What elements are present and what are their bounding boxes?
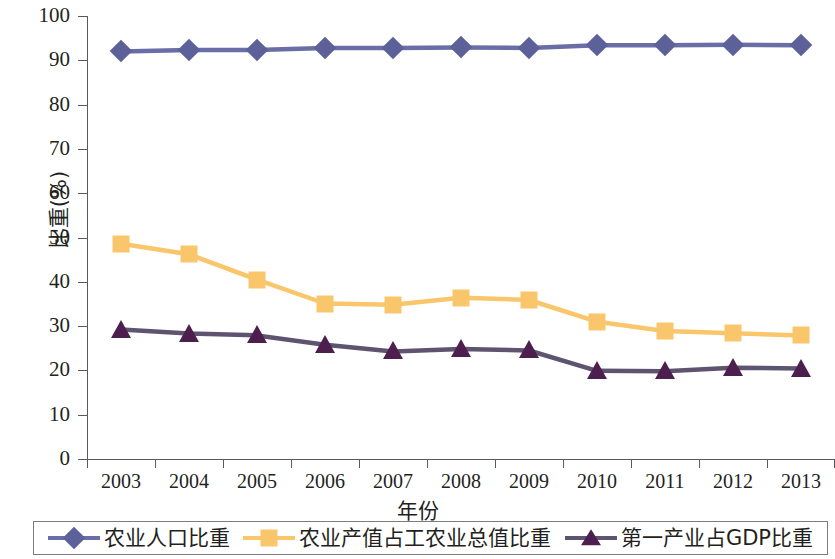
y-tick-mark: [78, 105, 87, 106]
legend-label: 第一产业占GDP比重: [621, 528, 813, 549]
x-tick-label: 2013: [756, 470, 835, 492]
x-tick-mark: [631, 459, 632, 468]
y-tick-mark: [78, 370, 87, 371]
legend-marker-triangle-icon: [581, 529, 601, 545]
y-tick-label: 0: [0, 448, 70, 469]
data-point-marker: [725, 325, 742, 342]
x-tick-mark: [495, 459, 496, 468]
legend-key-icon: [48, 528, 100, 548]
y-tick-label: 60: [0, 182, 70, 203]
y-tick-mark: [78, 282, 87, 283]
data-point-marker: [385, 296, 402, 313]
data-point-marker: [723, 358, 743, 376]
legend-label: 农业人口比重: [104, 528, 230, 549]
y-tick-label: 90: [0, 49, 70, 70]
x-tick-mark: [87, 459, 88, 468]
data-point-marker: [451, 339, 471, 357]
y-tick-label: 70: [0, 138, 70, 159]
y-tick-mark: [78, 193, 87, 194]
data-point-marker: [450, 36, 473, 59]
x-tick-mark: [291, 459, 292, 468]
chart-root: 比重(%) 0102030405060708090100 20032004200…: [0, 0, 835, 559]
data-point-marker: [453, 289, 470, 306]
y-tick-label: 40: [0, 271, 70, 292]
data-point-marker: [382, 37, 405, 60]
data-point-marker: [247, 325, 267, 343]
data-point-marker: [589, 313, 606, 330]
legend-marker-diamond-icon: [63, 527, 86, 550]
y-axis-title: 比重(%): [42, 145, 72, 275]
y-tick-label: 20: [0, 359, 70, 380]
y-tick-mark: [78, 16, 87, 17]
data-point-marker: [113, 235, 130, 252]
data-point-marker: [111, 320, 131, 338]
data-point-marker: [793, 327, 810, 344]
legend-marker-square-icon: [261, 530, 278, 547]
data-point-marker: [791, 359, 811, 377]
data-point-marker: [315, 335, 335, 353]
data-point-marker: [521, 291, 538, 308]
x-tick-mark: [359, 459, 360, 468]
x-tick-mark: [427, 459, 428, 468]
y-tick-label: 80: [0, 94, 70, 115]
data-point-marker: [179, 324, 199, 342]
legend-key-icon: [565, 528, 617, 548]
y-tick-mark: [78, 459, 87, 460]
data-point-marker: [722, 33, 745, 56]
legend-key-icon: [243, 528, 295, 548]
legend-label: 农业产值占工农业总值比重: [299, 528, 551, 549]
data-point-marker: [519, 341, 539, 359]
data-point-marker: [586, 34, 609, 57]
y-tick-mark: [78, 415, 87, 416]
y-tick-label: 50: [0, 227, 70, 248]
data-point-marker: [181, 246, 198, 263]
y-tick-mark: [78, 238, 87, 239]
x-tick-mark: [563, 459, 564, 468]
data-point-marker: [657, 322, 674, 339]
chart-legend: 农业人口比重农业产值占工农业总值比重第一产业占GDP比重: [33, 521, 828, 555]
data-point-marker: [178, 39, 201, 62]
data-point-marker: [518, 37, 541, 60]
y-tick-label: 100: [0, 5, 70, 26]
y-tick-label: 30: [0, 315, 70, 336]
y-tick-label: 10: [0, 404, 70, 425]
data-point-marker: [587, 361, 607, 379]
x-tick-mark: [155, 459, 156, 468]
legend-item-1[interactable]: 农业产值占工农业总值比重: [243, 528, 551, 549]
x-tick-mark: [699, 459, 700, 468]
data-point-marker: [314, 37, 337, 60]
data-point-marker: [654, 34, 677, 57]
data-point-marker: [246, 39, 269, 62]
data-point-marker: [110, 40, 133, 63]
data-point-marker: [249, 271, 266, 288]
data-point-marker: [383, 341, 403, 359]
x-tick-mark: [767, 459, 768, 468]
y-tick-mark: [78, 149, 87, 150]
data-point-marker: [317, 295, 334, 312]
x-tick-mark: [223, 459, 224, 468]
y-tick-mark: [78, 60, 87, 61]
data-point-marker: [655, 361, 675, 379]
x-axis-title: 年份: [0, 494, 835, 524]
y-tick-mark: [78, 326, 87, 327]
legend-item-2[interactable]: 第一产业占GDP比重: [565, 528, 813, 549]
legend-item-0[interactable]: 农业人口比重: [48, 528, 230, 549]
y-axis-line: [87, 16, 88, 460]
data-point-marker: [790, 34, 813, 57]
x-axis-line: [87, 459, 835, 460]
